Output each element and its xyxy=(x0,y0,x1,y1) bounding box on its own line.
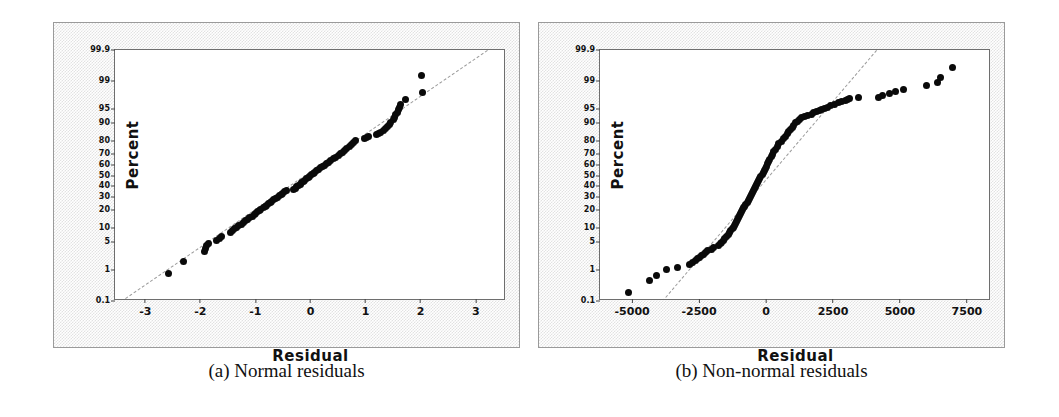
y-tick-label: 30 xyxy=(99,193,115,201)
y-tick-label: 1 xyxy=(104,266,115,274)
y-tick-label: 80 xyxy=(99,137,115,145)
caption-b: (b) Non-normal residuals xyxy=(538,360,1005,382)
x-tick-label: 2 xyxy=(417,299,425,317)
y-tick-label: 50 xyxy=(584,172,600,180)
data-point xyxy=(674,264,681,271)
data-point xyxy=(205,240,212,247)
y-tick-label: 60 xyxy=(584,161,600,169)
y-tick-label: 10 xyxy=(99,224,115,232)
y-tick-label: 40 xyxy=(584,182,600,190)
y-tick-label: 70 xyxy=(99,150,115,158)
y-tick-label: 5 xyxy=(104,238,115,246)
data-point xyxy=(365,133,372,140)
y-tick-label: 70 xyxy=(584,150,600,158)
data-point xyxy=(402,96,409,103)
y-tick-label: 90 xyxy=(584,119,600,127)
x-tick-label: 0 xyxy=(307,299,315,317)
data-point xyxy=(663,266,670,273)
x-tick-label: -1 xyxy=(249,299,261,317)
data-point xyxy=(165,270,172,277)
data-point xyxy=(419,89,426,96)
data-point xyxy=(625,289,632,296)
x-tick-label: 1 xyxy=(362,299,370,317)
data-point xyxy=(646,277,653,284)
y-tick-label: 10 xyxy=(584,224,600,232)
data-point xyxy=(283,187,290,194)
y-tick-label: 95 xyxy=(99,105,115,113)
y-tick-label: 99.9 xyxy=(90,46,115,54)
y-tick-label: 1 xyxy=(589,266,600,274)
y-tick-label: 95 xyxy=(584,105,600,113)
caption-a: (a) Normal residuals xyxy=(53,360,520,382)
y-tick-label: 0.1 xyxy=(581,297,600,305)
data-point xyxy=(937,74,944,81)
data-point xyxy=(949,64,956,71)
data-point xyxy=(180,258,187,265)
scatter-plot-a xyxy=(115,50,504,299)
y-tick-label: 20 xyxy=(584,206,600,214)
data-point xyxy=(418,72,425,79)
plot-frame-a: Percent Residual 0.115102030405060708090… xyxy=(114,49,505,300)
data-point xyxy=(653,272,660,279)
y-tick-label: 20 xyxy=(99,206,115,214)
data-point xyxy=(218,233,225,240)
panel-non-normal-residuals: Percent Residual 0.115102030405060708090… xyxy=(538,22,1005,348)
y-tick-label: 40 xyxy=(99,182,115,190)
x-tick-label: -3 xyxy=(139,299,151,317)
data-point xyxy=(855,94,862,101)
data-point xyxy=(923,82,930,89)
data-point xyxy=(892,88,899,95)
x-tick-label: 5000 xyxy=(885,299,916,317)
panel-normal-residuals: Percent Residual 0.115102030405060708090… xyxy=(53,22,520,348)
x-tick-label: 0 xyxy=(762,299,770,317)
x-tick-label: -2 xyxy=(194,299,206,317)
y-tick-label: 99 xyxy=(584,77,600,85)
plot-frame-b: Percent Residual 0.115102030405060708090… xyxy=(599,49,990,300)
figure-container: Percent Residual 0.115102030405060708090… xyxy=(0,0,1059,417)
y-tick-label: 0.1 xyxy=(96,297,115,305)
x-tick-label: 3 xyxy=(472,299,480,317)
x-tick-label: -5000 xyxy=(615,299,650,317)
data-point xyxy=(352,137,359,144)
x-tick-label: 7500 xyxy=(952,299,983,317)
y-tick-label: 99.9 xyxy=(575,46,600,54)
x-tick-label: 2500 xyxy=(818,299,849,317)
x-tick-label: -2500 xyxy=(681,299,716,317)
y-tick-label: 60 xyxy=(99,161,115,169)
y-tick-label: 80 xyxy=(584,137,600,145)
y-tick-label: 99 xyxy=(99,77,115,85)
y-tick-label: 30 xyxy=(584,193,600,201)
y-tick-label: 50 xyxy=(99,172,115,180)
data-point xyxy=(900,86,907,93)
scatter-plot-b xyxy=(600,50,989,299)
data-point xyxy=(846,95,853,102)
data-point xyxy=(879,92,886,99)
y-tick-label: 5 xyxy=(589,238,600,246)
y-tick-label: 90 xyxy=(99,119,115,127)
